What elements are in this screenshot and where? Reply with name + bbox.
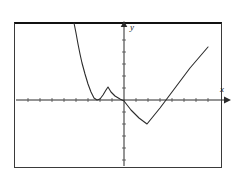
axes-group [16,21,231,166]
function-curve-path [74,23,208,124]
y-axis-arrow-icon [121,21,128,27]
x-axis-label: x [220,85,224,94]
graph-canvas [0,0,236,186]
graph-figure: y x [0,0,236,186]
y-axis-label: y [130,23,134,32]
function-curve [74,23,208,124]
x-axis-arrow-icon [224,97,231,104]
